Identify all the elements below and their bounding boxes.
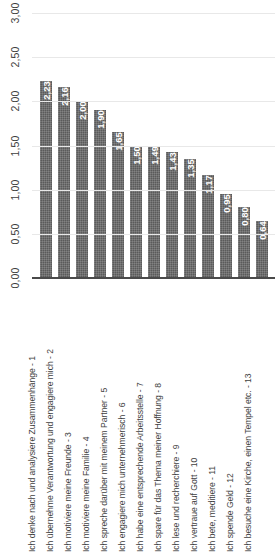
x-axis-category-label: Ich spare für das Thema meiner Hoffnung … bbox=[151, 383, 165, 552]
x-axis-category-label: Ich habe eine entsprechende Arbeitsstell… bbox=[133, 382, 147, 552]
gridline bbox=[32, 101, 275, 102]
bar-value-label: 1,43 bbox=[166, 144, 177, 178]
gridline bbox=[32, 146, 275, 147]
bar-value-label: 1,17 bbox=[202, 167, 213, 201]
bar-value-label: 0,95 bbox=[220, 187, 231, 221]
x-axis-category-label: Ich spreche darüber mit meinem Partner -… bbox=[97, 388, 111, 552]
bar: 1,50 bbox=[130, 146, 142, 279]
gridline bbox=[32, 190, 275, 191]
gridline bbox=[32, 13, 275, 14]
bar: 1,49 bbox=[148, 146, 160, 278]
bar: 0,95 bbox=[220, 194, 232, 278]
x-axis-category-label: Ich besuche eine Kirche, einen Tempel et… bbox=[241, 373, 255, 552]
x-axis-category-label: Ich motiviere meine Familie - 4 bbox=[79, 437, 93, 552]
y-axis: 0,000,501,001,502,002,503,00 bbox=[0, 0, 32, 290]
bar: 0,64 bbox=[256, 221, 268, 278]
bar-value-label: 2,16 bbox=[58, 80, 69, 114]
bar: 2,23 bbox=[40, 81, 52, 278]
x-axis-category-label: Ich vertraue auf Gott - 10 bbox=[187, 458, 201, 552]
bar-value-label: 1,35 bbox=[184, 151, 195, 185]
y-axis-tick-label: 2,00 bbox=[9, 86, 21, 116]
x-axis-category-label: Ich übernehme Verantwortung und engagier… bbox=[43, 349, 57, 552]
x-axis-category-label: Ich denke nach und analysiere Zusammenhä… bbox=[25, 356, 39, 552]
x-axis-category-labels: Ich denke nach und analysiere Zusammenhä… bbox=[32, 281, 275, 552]
bar-value-label: 1,65 bbox=[112, 125, 123, 159]
bar: 1,43 bbox=[166, 152, 178, 278]
y-axis-tick-label: 0,50 bbox=[9, 219, 21, 249]
bar-value-label: 2,23 bbox=[40, 74, 51, 108]
bar-value-label: 0,64 bbox=[256, 214, 267, 248]
x-axis-category-label: Ich lese und recherchiere - 9 bbox=[169, 445, 183, 552]
x-axis-category-label: Ich motiviere meine Freunde - 3 bbox=[61, 432, 75, 552]
bar: 1,35 bbox=[184, 159, 196, 278]
bar-value-label: 1,90 bbox=[94, 103, 105, 137]
bar: 1,65 bbox=[112, 132, 124, 278]
y-axis-tick-label: 1,00 bbox=[9, 175, 21, 205]
x-axis-category-label: Ich spende Geld - 12 bbox=[223, 473, 237, 552]
gridline bbox=[32, 234, 275, 235]
y-axis-tick-label: 1,50 bbox=[9, 131, 21, 161]
x-axis-category-label: Ich engagiere mich unternehmerisch - 6 bbox=[115, 402, 129, 552]
bar: 0,80 bbox=[238, 207, 250, 278]
bar: 2,16 bbox=[58, 87, 70, 278]
gridline bbox=[32, 57, 275, 58]
x-axis-line bbox=[32, 277, 275, 279]
bar-value-label: 2,00 bbox=[76, 94, 87, 128]
bar-value-label: 0,80 bbox=[238, 200, 249, 234]
bar-value-label: 1,50 bbox=[130, 138, 141, 172]
bar-chart: 0,000,501,001,502,002,503,00 2,232,162,0… bbox=[0, 0, 279, 552]
bar-value-label: 1,49 bbox=[148, 139, 159, 173]
x-axis-category-label: Ich bete, meditiere - 11 bbox=[205, 466, 219, 552]
y-axis-tick-label: 0,00 bbox=[9, 263, 21, 293]
y-axis-tick-label: 3,00 bbox=[9, 0, 21, 28]
plot-area: 2,232,162,001,901,651,501,491,431,351,17… bbox=[32, 13, 275, 278]
y-axis-tick-label: 2,50 bbox=[9, 42, 21, 72]
bar: 1,90 bbox=[94, 110, 106, 278]
x-axis-category-slot: Ich besuche eine Kirche, einen Tempel et… bbox=[253, 281, 271, 552]
